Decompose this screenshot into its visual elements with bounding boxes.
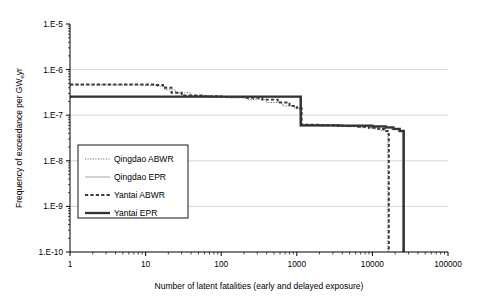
legend-label: Yantai EPR (114, 208, 157, 218)
x-axis-tick-labels: 110100100010000100000 (68, 259, 463, 269)
x-tick-label: 10000 (361, 259, 384, 269)
y-tick-label: 1.E-9 (43, 201, 63, 211)
legend-label: Qingdao ABWR (114, 154, 174, 164)
y-tick-label: 1.E-7 (43, 110, 63, 120)
y-tick-label: 1.E-5 (43, 19, 63, 29)
x-tick-label: 1000 (288, 259, 307, 269)
y-tick-label: 1.E-6 (43, 65, 63, 75)
y-tick-label: 1.E-8 (43, 156, 63, 166)
legend-label: Qingdao EPR (114, 172, 166, 182)
y-axis-title: Frequency of exceedance per GWeyr (14, 68, 25, 208)
x-tick-label: 100 (214, 259, 228, 269)
x-tick-label: 10 (141, 259, 151, 269)
y-axis-tick-labels: 1.E-51.E-61.E-71.E-81.E-91.E-10 (39, 19, 64, 257)
x-tick-label: 1 (68, 259, 73, 269)
legend-label: Yantai ABWR (114, 190, 165, 200)
x-axis-title: Number of latent fatalities (early and d… (155, 281, 364, 291)
chart-figure: 1.E-51.E-61.E-71.E-81.E-91.E-10 11010010… (0, 0, 479, 307)
y-tick-label: 1.E-10 (39, 247, 64, 257)
x-tick-label: 100000 (434, 259, 462, 269)
svg-text:Frequency of exceedance per GW: Frequency of exceedance per GWeyr (14, 68, 25, 208)
x-axis-ticks (70, 252, 448, 256)
exceedance-frequency-chart: 1.E-51.E-61.E-71.E-81.E-91.E-10 11010010… (0, 0, 479, 307)
legend: Qingdao ABWRQingdao EPRYantai ABWRYantai… (78, 145, 188, 218)
y-axis-ticks (66, 24, 70, 252)
